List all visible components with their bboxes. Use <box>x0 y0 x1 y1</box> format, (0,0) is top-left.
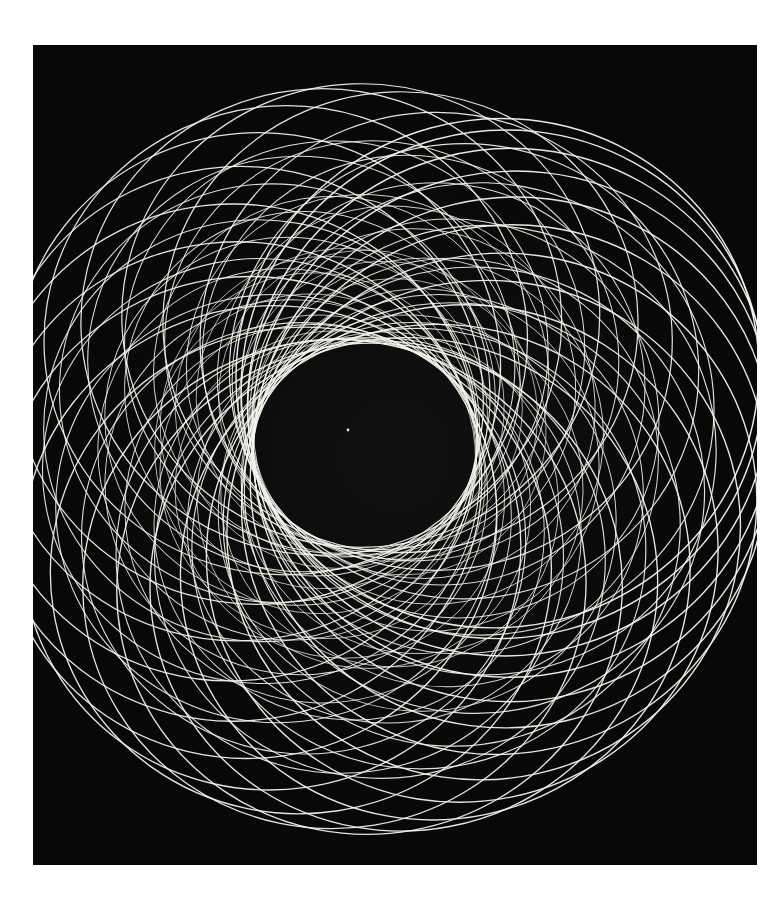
spirograph-plot <box>33 45 757 865</box>
photographic-print <box>33 45 757 865</box>
emulsion-speck <box>347 429 350 432</box>
page-root <box>0 0 783 897</box>
